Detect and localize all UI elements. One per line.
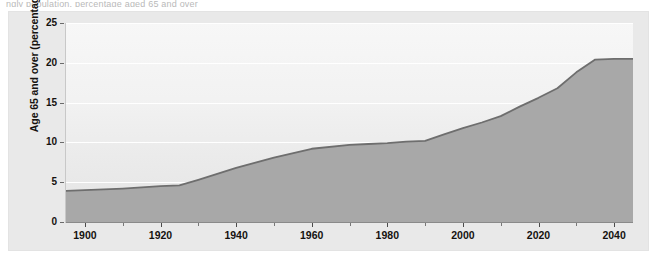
x-tick-mark-1920 [161,223,162,227]
x-tick-label-2040: 2040 [594,229,634,241]
x-tick-label-1920: 1920 [141,229,181,241]
x-tick-minor-2010 [501,223,502,226]
plot-area [66,23,633,222]
y-tick-mark-20 [60,63,64,64]
x-tick-minor-1950 [274,223,275,226]
y-tick-label-15: 15 [31,97,57,108]
x-tick-mark-2040 [614,223,615,227]
x-tick-mark-1980 [387,223,388,227]
x-tick-minor-1970 [350,223,351,226]
y-tick-mark-15 [60,103,64,104]
y-tick-label-25: 25 [31,17,57,28]
x-tick-mark-2020 [539,223,540,227]
chart-figure-panel: Age 65 and over (percentage) 0510152025 … [9,12,648,250]
x-tick-mark-1960 [312,223,313,227]
y-tick-mark-10 [60,142,64,143]
x-tick-label-2000: 2000 [443,229,483,241]
x-tick-label-1980: 1980 [367,229,407,241]
y-tick-label-10: 10 [31,136,57,147]
area-fill-path [66,59,633,222]
y-tick-label-20: 20 [31,57,57,68]
y-tick-mark-25 [60,23,64,24]
x-tick-mark-1940 [236,223,237,227]
clipped-top-caption: ngly population, percentage aged 65 and … [6,0,646,7]
x-tick-label-2020: 2020 [519,229,559,241]
y-tick-mark-5 [60,182,64,183]
x-tick-minor-2030 [576,223,577,226]
x-tick-minor-1910 [123,223,124,226]
y-tick-label-0: 0 [31,216,57,227]
x-tick-minor-1930 [198,223,199,226]
y-tick-label-5: 5 [31,176,57,187]
x-tick-label-1940: 1940 [216,229,256,241]
x-tick-label-1900: 1900 [65,229,105,241]
x-tick-minor-1990 [425,223,426,226]
y-tick-mark-0 [60,222,64,223]
x-tick-mark-1900 [85,223,86,227]
x-tick-label-1960: 1960 [292,229,332,241]
x-tick-mark-2000 [463,223,464,227]
series-area-chart [66,23,633,222]
